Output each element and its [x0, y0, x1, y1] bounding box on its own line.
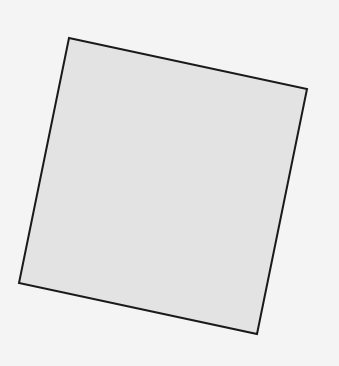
rotated-square: [19, 38, 307, 334]
diagram-canvas: [0, 0, 339, 366]
